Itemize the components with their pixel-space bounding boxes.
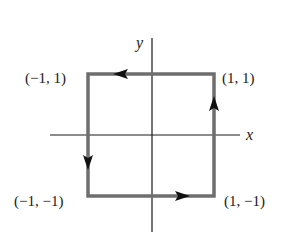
vertex-label-top-left: (−1, 1) — [25, 70, 66, 87]
x-axis-label: x — [245, 126, 253, 143]
coordinate-diagram: y x (1, 1) (−1, 1) (−1, −1) (1, −1) — [0, 0, 289, 240]
y-axis-label: y — [134, 34, 144, 52]
vertex-label-bottom-right: (1, −1) — [224, 193, 265, 210]
vertex-label-top-right: (1, 1) — [222, 70, 255, 87]
vertex-label-bottom-left: (−1, −1) — [14, 193, 63, 210]
